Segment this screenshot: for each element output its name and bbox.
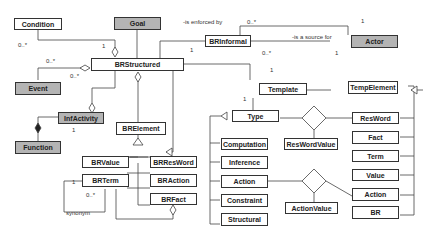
class-actor: Actor — [351, 35, 398, 48]
label-is-source-for: -is a source for — [292, 34, 332, 40]
class-resword: ResWord — [352, 112, 399, 124]
mult-enf-many: 0..* — [247, 19, 256, 25]
class-fact: Fact — [352, 131, 399, 144]
mult-template-one: 1 — [270, 67, 273, 73]
class-brterm: BRTerm — [82, 174, 129, 187]
class-structural: Structural — [221, 213, 268, 226]
class-type: Type — [232, 110, 279, 122]
class-constraint: Constraint — [221, 194, 268, 207]
label-synonym: synonym — [66, 210, 90, 216]
class-reswordvalue: ResWordValue — [284, 138, 338, 150]
class-braction: BRAction — [150, 174, 197, 187]
class-brstructured: BRStructured — [91, 58, 184, 71]
mult-event-many2: 0..* — [70, 73, 79, 79]
mult-cond-many: 0..* — [18, 42, 27, 48]
class-action-type: Action — [221, 175, 268, 188]
mult-syn-one: 1 — [72, 179, 75, 185]
class-infactivity: InfActivity — [58, 112, 104, 124]
class-computation: Computation — [221, 138, 268, 150]
mult-syn-many: 0..* — [86, 192, 95, 198]
mult-src-one: 1 — [335, 50, 338, 56]
class-goal: Goal — [114, 17, 161, 30]
class-actionvalue: ActionValue — [285, 202, 338, 214]
mult-src-many: 0..* — [262, 50, 271, 56]
class-term: Term — [352, 150, 399, 162]
mult-cond-one: 1 — [102, 43, 105, 49]
class-brvalue: BRValue — [82, 156, 129, 168]
class-tempelement: TempElement — [348, 81, 398, 94]
class-function: Function — [15, 141, 61, 154]
class-value: Value — [352, 169, 399, 181]
label-is-enforced-by: -is enforced by — [183, 19, 222, 25]
mult-event-many1: 0..* — [46, 58, 55, 64]
mult-one: 1 — [190, 47, 193, 53]
mult-func-one: 1 — [72, 127, 75, 133]
class-brelement: BRElement — [116, 122, 166, 135]
mult-enf-one: 1 — [361, 18, 364, 24]
class-br: BR — [352, 206, 399, 219]
class-brinformal: BRInformal — [205, 35, 251, 47]
class-template: Template — [259, 83, 307, 95]
class-brresword: BRResWord — [150, 156, 197, 168]
class-inference: Inference — [221, 156, 268, 169]
class-condition: Condition — [14, 18, 62, 30]
class-event: Event — [15, 82, 61, 95]
mult-type-one: 1 — [243, 96, 246, 102]
class-action-elem: Action — [352, 188, 399, 201]
class-brfact: BRFact — [150, 193, 197, 205]
